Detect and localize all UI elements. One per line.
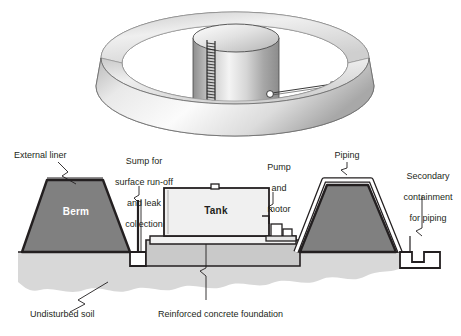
figure-root: External liner Sump for surface run-off … bbox=[0, 0, 461, 336]
label-pump-and-motor: Pump and motor bbox=[248, 151, 300, 225]
tank-roof-nozzle bbox=[211, 184, 219, 189]
label-secondary-line-3: for piping bbox=[409, 213, 446, 223]
leader-piping bbox=[341, 162, 347, 175]
iso-tank-top bbox=[193, 24, 279, 52]
label-sump-line-3: and leak bbox=[127, 198, 161, 208]
label-tank: Tank bbox=[192, 205, 240, 216]
label-pump-line-3: motor bbox=[268, 204, 291, 214]
cross-section-view bbox=[18, 178, 440, 292]
iso-pipe-valve-icon bbox=[267, 91, 274, 98]
label-berm: Berm bbox=[52, 206, 100, 217]
label-secondary-containment: Secondary containment for piping bbox=[386, 160, 460, 234]
label-secondary-line-1: Secondary bbox=[406, 171, 449, 181]
label-piping: Piping bbox=[320, 150, 374, 161]
secondary-containment-trench bbox=[400, 236, 440, 268]
label-secondary-line-2: containment bbox=[403, 192, 452, 202]
label-undisturbed-soil: Undisturbed soil bbox=[30, 309, 140, 320]
label-sump-line-2: surface run-off bbox=[115, 177, 173, 187]
label-sump-line-1: Sump for bbox=[126, 156, 163, 166]
label-reinforced-concrete-foundation: Reinforced concrete foundation bbox=[158, 309, 338, 320]
label-sump: Sump for surface run-off and leak collec… bbox=[98, 145, 180, 240]
isometric-view bbox=[96, 12, 374, 136]
label-pump-line-2: and bbox=[271, 183, 286, 193]
label-sump-line-4: collection bbox=[125, 219, 163, 229]
label-external-liner: External liner bbox=[14, 150, 98, 161]
label-pump-line-1: Pump bbox=[267, 162, 291, 172]
right-berm bbox=[300, 185, 396, 252]
